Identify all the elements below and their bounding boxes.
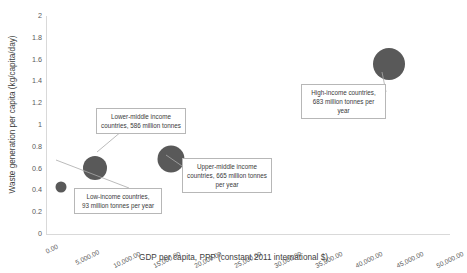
callout-lower-middle: Lower-middle income countries, 586 milli… — [96, 108, 186, 134]
data-point-bubble — [83, 156, 107, 180]
x-axis-title: GDP per capita, PPP (constant 2011 inter… — [0, 253, 467, 262]
data-point-bubble — [373, 48, 405, 80]
callout-high-income: High-income countries, 683 million tonne… — [301, 84, 386, 119]
x-axis-line — [46, 234, 450, 235]
y-axis-tick-labels: 00.20.40.60.811.21.41.61.82 — [0, 16, 42, 234]
y-axis-tick: 0 — [8, 230, 42, 237]
callout-low-income: Low-income countries, 93 million tonnes … — [74, 188, 162, 214]
data-point-bubble — [55, 182, 66, 193]
waste-vs-gdp-scatter-chart: 00.20.40.60.811.21.41.61.82 0.005,000.00… — [0, 0, 467, 273]
callout-upper-middle: Upper-middle income countries, 665 milli… — [182, 158, 272, 193]
data-point-bubble — [158, 145, 185, 172]
y-axis-title: Waste generation per capita (kg/capita/d… — [8, 15, 17, 215]
